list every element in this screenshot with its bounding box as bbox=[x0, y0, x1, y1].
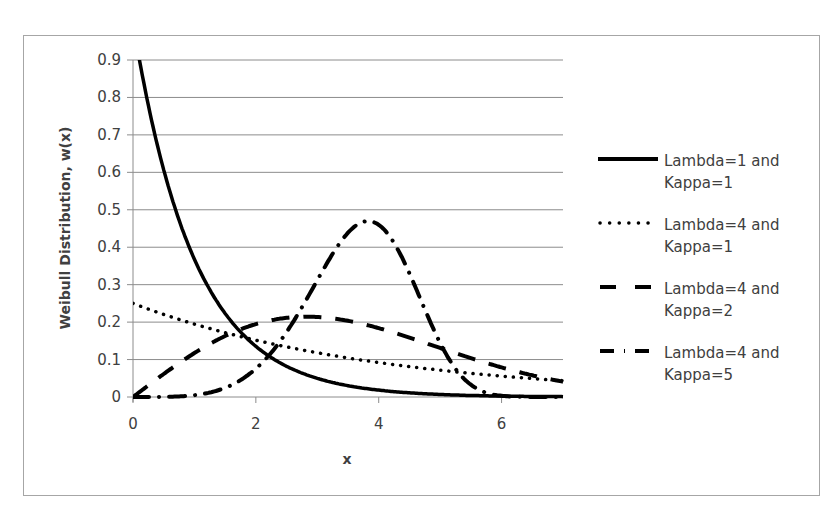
legend-label-line1: Lambda=4 and bbox=[664, 342, 814, 364]
legend-label-line2: Kappa=1 bbox=[664, 236, 814, 258]
legend-label-line2: Kappa=1 bbox=[664, 172, 814, 194]
y-tick-label: 0.1 bbox=[97, 351, 121, 369]
x-tick-label: 2 bbox=[251, 415, 261, 433]
y-tick-label: 0.9 bbox=[97, 51, 121, 69]
legend-label-line1: Lambda=4 and bbox=[664, 278, 814, 300]
legend-item-l1k1: Lambda=1 andKappa=1 bbox=[598, 150, 818, 214]
y-axis-title: Weibull Distribution, w(x) bbox=[57, 127, 73, 330]
legend-label-line1: Lambda=4 and bbox=[664, 214, 814, 236]
legend-item-l4k2: Lambda=4 andKappa=2 bbox=[598, 278, 818, 342]
y-tick-label: 0.2 bbox=[97, 313, 121, 331]
x-tick-label: 0 bbox=[128, 415, 138, 433]
dotted-line-swatch-icon bbox=[598, 214, 660, 232]
legend-item-l4k5: Lambda=4 andKappa=5 bbox=[598, 342, 818, 406]
y-tick-label: 0.8 bbox=[97, 88, 121, 106]
y-tick-label: 0.7 bbox=[97, 126, 121, 144]
x-tick-label: 4 bbox=[374, 415, 384, 433]
y-tick-label: 0.5 bbox=[97, 201, 121, 219]
solid-line-swatch-icon bbox=[598, 150, 660, 168]
series-line-dotted bbox=[133, 303, 563, 380]
legend: Lambda=1 andKappa=1 Lambda=4 andKappa=1 … bbox=[598, 150, 818, 406]
x-tick-label: 6 bbox=[497, 415, 507, 433]
dashed-line-swatch-icon bbox=[598, 278, 660, 296]
y-tick-label: 0.3 bbox=[97, 276, 121, 294]
y-tick-label: 0.6 bbox=[97, 163, 121, 181]
legend-item-l4k1: Lambda=4 andKappa=1 bbox=[598, 214, 818, 278]
y-tick-label: 0.4 bbox=[97, 238, 121, 256]
legend-label-line2: Kappa=5 bbox=[664, 364, 814, 386]
legend-label-line1: Lambda=1 and bbox=[664, 150, 814, 172]
dash-dot-line-swatch-icon bbox=[598, 342, 660, 360]
x-axis-title: x bbox=[342, 451, 351, 467]
legend-label-line2: Kappa=2 bbox=[664, 300, 814, 322]
y-tick-label: 0 bbox=[111, 388, 121, 406]
